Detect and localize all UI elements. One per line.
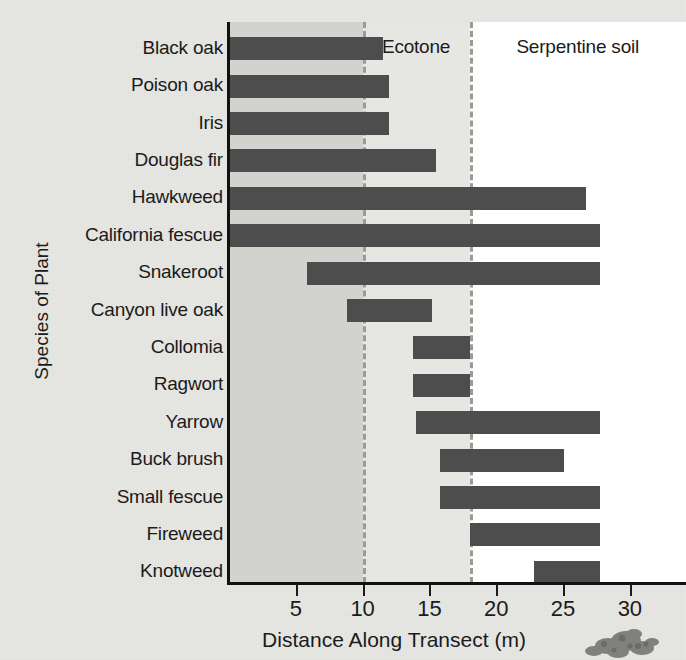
bar-buck-brush xyxy=(440,449,564,472)
figure-page: Normal soilEcotoneSerpentine soil Black … xyxy=(0,0,686,660)
x-tick-30 xyxy=(630,585,632,596)
bar-collomia xyxy=(413,336,469,359)
y-tick-label-buck-brush: Buck brush xyxy=(23,448,223,470)
x-tick-label-20: 20 xyxy=(484,596,508,622)
zone-label-serpentine-soil: Serpentine soil xyxy=(470,36,686,58)
plot-area: Normal soilEcotoneSerpentine soil xyxy=(229,22,686,583)
y-axis-line xyxy=(227,22,230,585)
y-tick-label-douglas-fir: Douglas fir xyxy=(23,149,223,171)
plant-photo-decoration xyxy=(574,624,670,660)
x-tick-10 xyxy=(363,585,365,596)
bar-california-fescue xyxy=(229,224,600,247)
x-tick-label-5: 5 xyxy=(290,596,302,622)
bar-black-oak xyxy=(229,37,383,60)
bar-iris xyxy=(229,112,389,135)
x-tick-15 xyxy=(429,585,431,596)
zone-background-normal-soil xyxy=(229,22,363,583)
y-tick-label-black-oak: Black oak xyxy=(23,37,223,59)
y-tick-label-small-fescue: Small fescue xyxy=(23,486,223,508)
y-tick-label-iris: Iris xyxy=(23,112,223,134)
bar-yarrow xyxy=(416,411,600,434)
x-tick-5 xyxy=(296,585,298,596)
bar-snakeroot xyxy=(307,262,601,285)
y-tick-label-fireweed: Fireweed xyxy=(23,523,223,545)
y-tick-label-snakeroot: Snakeroot xyxy=(23,261,223,283)
bar-knotweed xyxy=(534,561,601,584)
y-tick-label-knotweed: Knotweed xyxy=(23,560,223,582)
y-tick-label-canyon-live-oak: Canyon live oak xyxy=(23,299,223,321)
y-tick-label-hawkweed: Hawkweed xyxy=(23,186,223,208)
y-tick-label-california-fescue: California fescue xyxy=(23,224,223,246)
x-tick-label-10: 10 xyxy=(350,596,374,622)
x-axis-title: Distance Along Transect (m) xyxy=(229,628,559,652)
bar-poison-oak xyxy=(229,75,389,98)
x-tick-label-25: 25 xyxy=(551,596,575,622)
bar-fireweed xyxy=(470,523,601,546)
x-tick-25 xyxy=(563,585,565,596)
y-tick-label-collomia: Collomia xyxy=(23,336,223,358)
y-tick-label-ragwort: Ragwort xyxy=(23,373,223,395)
bar-ragwort xyxy=(413,374,469,397)
bar-small-fescue xyxy=(440,486,600,509)
x-tick-label-30: 30 xyxy=(618,596,642,622)
y-tick-label-poison-oak: Poison oak xyxy=(23,74,223,96)
x-tick-20 xyxy=(496,585,498,596)
y-tick-label-yarrow: Yarrow xyxy=(23,411,223,433)
x-tick-label-15: 15 xyxy=(417,596,441,622)
bar-hawkweed xyxy=(229,187,586,210)
bar-canyon-live-oak xyxy=(347,299,433,322)
y-axis-title: Species of Plant xyxy=(31,201,53,421)
bar-douglas-fir xyxy=(229,149,436,172)
